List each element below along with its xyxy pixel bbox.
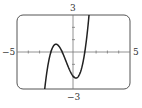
y-max-label: 3 bbox=[70, 4, 76, 13]
x-max-label: 5 bbox=[133, 48, 139, 57]
x-min-label: −5 bbox=[2, 48, 15, 57]
y-min-label: −3 bbox=[67, 93, 80, 102]
